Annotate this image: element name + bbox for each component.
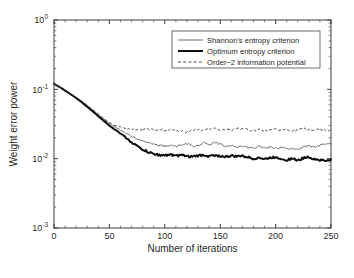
x-tick-label-0: 0 — [51, 231, 56, 241]
x-tick-label-100: 100 — [157, 231, 172, 241]
chart-legend: Shannon's entropy criterionOptimum entro… — [172, 31, 320, 68]
x-tick-label-250: 250 — [323, 231, 338, 241]
y-tick-label--1: 10-1 — [32, 83, 48, 95]
chart-svg: 05010015020025010010-110-210-3 Shannon's… — [0, 0, 354, 278]
y-tick-label--3: 10-3 — [32, 221, 48, 233]
x-tick-label-50: 50 — [104, 231, 114, 241]
x-tick-label-200: 200 — [268, 231, 283, 241]
legend-label-1: Optimum entropy criterion — [207, 47, 294, 56]
series-line-order2 — [54, 84, 331, 133]
legend-label-0: Shannon's entropy criterion — [207, 36, 299, 45]
x-tick-label-150: 150 — [213, 231, 228, 241]
y-axis-title: Weight error power — [8, 81, 19, 167]
y-tick-label-0: 100 — [34, 13, 48, 25]
x-axis-title: Number of iterations — [147, 243, 237, 254]
data-series-group — [54, 84, 331, 161]
series-line-shannon — [54, 84, 331, 150]
y-tick-label--2: 10-2 — [32, 152, 48, 164]
figure-container: 05010015020025010010-110-210-3 Shannon's… — [0, 0, 354, 278]
legend-label-2: Order−2 information potential — [207, 58, 306, 67]
